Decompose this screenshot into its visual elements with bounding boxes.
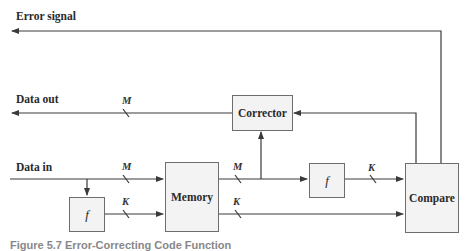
data-out-label: Data out: [16, 94, 59, 106]
f-output-label: f: [325, 173, 329, 189]
error-signal-label: Error signal: [16, 11, 76, 23]
bus-width-memory-data: M: [233, 162, 242, 173]
memory-block: Memory: [165, 162, 219, 232]
bus-width-f-to-memory: K: [122, 197, 129, 208]
bus-width-data-in: M: [122, 162, 131, 173]
f-input-block: f: [69, 197, 105, 232]
bus-width-f-to-compare: K: [368, 163, 375, 174]
figure-caption: Figure 5.7 Error-Correcting Code Functio…: [10, 239, 231, 251]
compare-block: Compare: [405, 163, 459, 233]
compare-to-corrector-line: [294, 113, 416, 163]
memory-label: Memory: [171, 191, 213, 203]
error-signal-line: [12, 31, 441, 163]
f-input-label: f: [85, 207, 89, 223]
corrector-label: Corrector: [238, 107, 287, 119]
bus-width-memory-check: K: [233, 197, 240, 208]
compare-label: Compare: [409, 192, 455, 204]
bus-width-data-out: M: [122, 96, 131, 107]
corrector-block: Corrector: [232, 95, 293, 131]
data-in-label: Data in: [16, 162, 52, 174]
f-output-block: f: [309, 163, 345, 198]
